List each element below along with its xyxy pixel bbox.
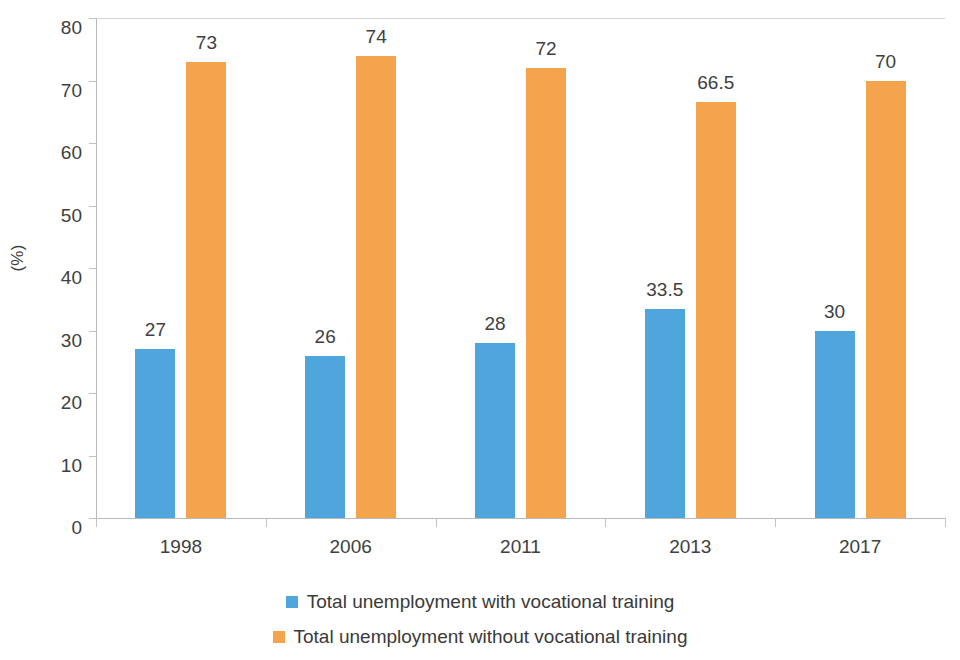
x-axis-tick bbox=[266, 518, 267, 527]
y-axis-tick-label: 40 bbox=[34, 268, 82, 287]
x-axis-line bbox=[96, 518, 945, 519]
y-axis-tick-label: 30 bbox=[34, 331, 82, 350]
bar-chart: (%) 80706050403020100 27732674287233.566… bbox=[0, 0, 960, 660]
x-axis-tick bbox=[96, 518, 97, 527]
y-axis-tick-label: 50 bbox=[34, 206, 82, 225]
legend-swatch-icon bbox=[273, 631, 285, 643]
x-axis-tick-label: 2011 bbox=[451, 536, 591, 558]
bar bbox=[645, 309, 685, 518]
legend-item[interactable]: Total unemployment with vocational train… bbox=[0, 584, 960, 619]
y-axis-tick-label: 80 bbox=[34, 18, 82, 37]
x-axis-tick bbox=[945, 518, 946, 527]
bar bbox=[866, 81, 906, 519]
y-axis-tick bbox=[89, 331, 96, 332]
bar-value-label: 70 bbox=[841, 52, 931, 71]
x-axis-tick-label: 2006 bbox=[281, 536, 421, 558]
x-axis-tick bbox=[605, 518, 606, 527]
bar bbox=[526, 68, 566, 518]
y-axis-tick bbox=[89, 18, 96, 19]
bar bbox=[696, 102, 736, 518]
bar bbox=[815, 331, 855, 519]
y-axis-tick-label: 0 bbox=[34, 518, 82, 537]
x-axis-tick-label: 2017 bbox=[790, 536, 930, 558]
y-axis-tick bbox=[89, 456, 96, 457]
bar-value-label: 73 bbox=[161, 33, 251, 52]
y-axis-tick bbox=[89, 206, 96, 207]
bar-value-label: 72 bbox=[501, 39, 591, 58]
bar bbox=[475, 343, 515, 518]
y-axis-tick bbox=[89, 81, 96, 82]
chart-legend: Total unemployment with vocational train… bbox=[0, 584, 960, 654]
legend-label: Total unemployment without vocational tr… bbox=[294, 626, 688, 648]
bar bbox=[135, 349, 175, 518]
legend-swatch-icon bbox=[286, 596, 298, 608]
bars-layer: 27732674287233.566.53070 bbox=[96, 18, 945, 518]
y-axis-tick bbox=[89, 393, 96, 394]
x-axis-tick bbox=[436, 518, 437, 527]
bar bbox=[186, 62, 226, 518]
y-axis-tick bbox=[89, 268, 96, 269]
x-axis-tick bbox=[775, 518, 776, 527]
y-axis-tick-label: 20 bbox=[34, 393, 82, 412]
bar bbox=[356, 56, 396, 519]
y-axis-tick bbox=[89, 143, 96, 144]
x-axis-tick-label: 2013 bbox=[620, 536, 760, 558]
bar-value-label: 74 bbox=[331, 27, 421, 46]
legend-item[interactable]: Total unemployment without vocational tr… bbox=[0, 619, 960, 654]
y-axis-tick bbox=[89, 518, 96, 519]
bar-value-label: 66.5 bbox=[671, 73, 761, 92]
y-axis-tick-label: 10 bbox=[34, 456, 82, 475]
legend-label: Total unemployment with vocational train… bbox=[307, 591, 675, 613]
bar bbox=[305, 356, 345, 519]
x-axis-tick-label: 1998 bbox=[111, 536, 251, 558]
y-axis-tick-label: 70 bbox=[34, 81, 82, 100]
y-axis-tick-label: 60 bbox=[34, 143, 82, 162]
y-axis-title: (%) bbox=[8, 228, 28, 288]
